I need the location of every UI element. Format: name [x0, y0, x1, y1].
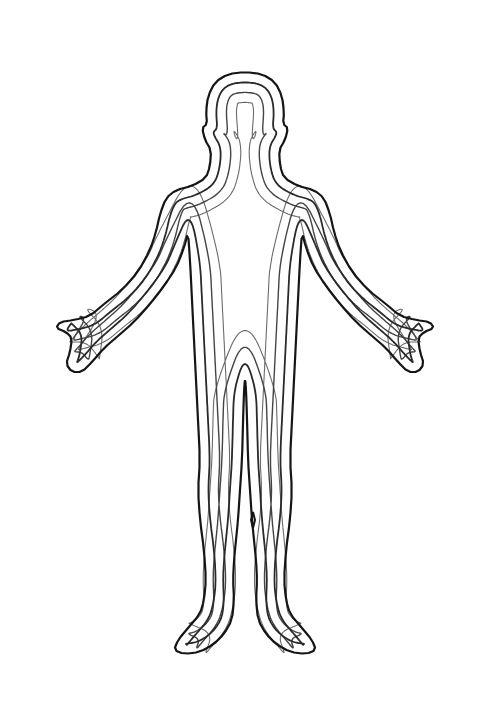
body-outline-diagram [0, 0, 491, 715]
background [0, 0, 491, 715]
diagram-canvas: Human body outline with nested contour l… [0, 0, 491, 715]
